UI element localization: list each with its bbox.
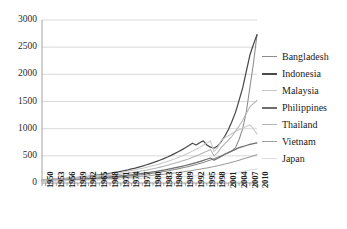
x-tick-label: 1962 — [88, 172, 98, 188]
legend-swatch-icon — [262, 141, 277, 142]
x-tick-label: 2001 — [228, 172, 238, 188]
x-tick-label: 1953 — [56, 172, 66, 188]
x-tick-label: 2007 — [250, 172, 260, 188]
x-tick-label: 1971 — [121, 172, 131, 188]
legend-item-thailand[interactable]: Thailand — [262, 116, 347, 133]
legend: BangladeshIndonesiaMalaysiaPhilippinesTh… — [262, 48, 347, 167]
legend-label: Thailand — [282, 119, 318, 130]
x-tick-label: 1995 — [207, 172, 217, 188]
legend-item-malaysia[interactable]: Malaysia — [262, 82, 347, 99]
legend-swatch-icon — [262, 107, 277, 109]
y-tick-label: 3000 — [0, 15, 37, 25]
legend-item-vietnam[interactable]: Vietnam — [262, 133, 347, 150]
x-tick-label: 1989 — [185, 172, 195, 188]
legend-swatch-icon — [262, 73, 277, 75]
legend-label: Indonesia — [282, 68, 321, 79]
x-tick-label: 1974 — [131, 172, 141, 188]
legend-label: Japan — [282, 153, 305, 164]
x-tick-label: 1965 — [99, 172, 109, 188]
series-line-thailand — [42, 100, 257, 180]
x-tick-label: 1977 — [142, 172, 152, 188]
legend-item-japan[interactable]: Japan — [262, 150, 347, 167]
y-tick-label: 2500 — [0, 42, 37, 52]
legend-label: Vietnam — [282, 136, 316, 147]
legend-label: Bangladesh — [282, 51, 329, 62]
legend-item-bangladesh[interactable]: Bangladesh — [262, 48, 347, 65]
x-tick-label: 1956 — [67, 172, 77, 188]
legend-swatch-icon — [262, 56, 277, 57]
x-tick-label: 2010 — [260, 172, 270, 188]
y-tick-label: 1500 — [0, 97, 37, 107]
x-tick-label: 1998 — [217, 172, 227, 188]
series-line-bangladesh — [42, 35, 257, 181]
x-tick-label: 1950 — [45, 172, 55, 188]
y-tick-label: 0 — [0, 178, 37, 188]
x-tick-label: 1992 — [196, 172, 206, 188]
y-tick-label: 500 — [0, 151, 37, 161]
x-tick-label: 1959 — [78, 172, 88, 188]
legend-label: Malaysia — [282, 85, 319, 96]
y-tick-label: 1000 — [0, 124, 37, 134]
x-tick-label: 1980 — [153, 172, 163, 188]
series-line-indonesia — [42, 35, 257, 180]
legend-swatch-icon — [262, 124, 277, 125]
legend-swatch-icon — [262, 90, 277, 91]
series-lines — [42, 35, 257, 181]
x-tick-label: 1968 — [110, 172, 120, 188]
legend-label: Philippines — [282, 102, 327, 113]
y-tick-label: 2000 — [0, 69, 37, 79]
legend-item-philippines[interactable]: Philippines — [262, 99, 347, 116]
x-tick-label: 2004 — [239, 172, 249, 188]
x-tick-label: 1986 — [174, 172, 184, 188]
legend-swatch-icon — [262, 158, 277, 159]
legend-item-indonesia[interactable]: Indonesia — [262, 65, 347, 82]
line-chart: 300025002000150010005000 195019531956195… — [0, 0, 347, 229]
x-tick-label: 1983 — [164, 172, 174, 188]
